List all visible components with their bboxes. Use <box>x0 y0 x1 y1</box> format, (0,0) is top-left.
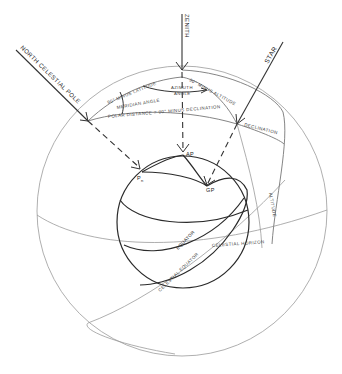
label-ap: AP <box>186 151 194 157</box>
label-celestial-horizon: CELESTIAL HORIZON <box>212 239 265 248</box>
celestial-sphere-diagram: NORTH CELESTIAL POLE ZENITH STAR 90° MIN… <box>0 0 342 374</box>
star-ray <box>237 42 283 124</box>
ncp-dashed-line <box>88 121 140 168</box>
label-azimuth: AZIMUTH <box>171 85 193 90</box>
arc-star-to-horizon <box>237 124 262 248</box>
label-altitude: ALTITUDE <box>268 192 277 217</box>
star-dashed-line <box>207 124 237 185</box>
label-azimuth-angle: ANGLE <box>174 91 191 96</box>
celestial-horizon-arc <box>37 210 327 243</box>
label-zenith: ZENITH <box>184 14 190 38</box>
label-pn: Pn <box>137 175 144 183</box>
label-gp: GP <box>206 187 215 193</box>
celestial-equator-back-arc <box>87 323 175 354</box>
star-arrowhead <box>236 114 245 124</box>
celestial-equator-arc <box>88 180 285 323</box>
north-celestial-pole-ray <box>16 50 88 121</box>
label-equator: EQUATOR <box>175 229 196 250</box>
earth-parallel <box>120 200 248 222</box>
label-declination: DECLINATION <box>244 122 279 135</box>
earth-arc-pn-ap <box>142 155 183 172</box>
label-north-celestial-pole: NORTH CELESTIAL POLE <box>19 44 81 104</box>
label-celestial-equator: CELESTIAL EQUATOR <box>157 251 200 292</box>
